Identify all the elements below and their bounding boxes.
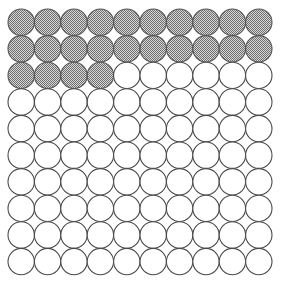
circle-row xyxy=(8,248,272,274)
shaded-circle xyxy=(34,9,60,35)
unshaded-circle xyxy=(114,195,140,221)
shaded-circle xyxy=(166,9,192,35)
unshaded-circle xyxy=(114,142,140,168)
circles-layer xyxy=(8,9,272,275)
unshaded-circle xyxy=(8,169,34,195)
shaded-circle xyxy=(219,9,245,35)
unshaded-circle xyxy=(219,89,245,115)
unshaded-circle xyxy=(114,115,140,141)
unshaded-circle xyxy=(140,115,166,141)
unshaded-circle xyxy=(193,62,219,88)
unshaded-circle xyxy=(193,222,219,248)
unshaded-circle xyxy=(246,195,272,221)
shaded-circle xyxy=(87,62,113,88)
unshaded-circle xyxy=(140,195,166,221)
unshaded-circle xyxy=(61,115,87,141)
circle-row xyxy=(8,222,272,248)
unshaded-circle xyxy=(34,248,60,274)
unshaded-circle xyxy=(193,115,219,141)
unshaded-circle xyxy=(140,248,166,274)
unshaded-circle xyxy=(193,142,219,168)
unshaded-circle xyxy=(61,169,87,195)
unshaded-circle xyxy=(140,142,166,168)
unshaded-circle xyxy=(140,169,166,195)
unshaded-circle xyxy=(114,89,140,115)
unshaded-circle xyxy=(8,89,34,115)
shaded-circle xyxy=(34,36,60,62)
unshaded-circle xyxy=(193,248,219,274)
unshaded-circle xyxy=(61,142,87,168)
unshaded-circle xyxy=(87,169,113,195)
unshaded-circle xyxy=(193,89,219,115)
unshaded-circle xyxy=(166,248,192,274)
unshaded-circle xyxy=(34,142,60,168)
unshaded-circle xyxy=(34,89,60,115)
shaded-circle xyxy=(61,62,87,88)
unshaded-circle xyxy=(8,222,34,248)
unshaded-circle xyxy=(140,89,166,115)
unshaded-circle xyxy=(61,195,87,221)
unshaded-circle xyxy=(246,169,272,195)
unshaded-circle xyxy=(8,142,34,168)
unshaded-circle xyxy=(246,115,272,141)
circle-row xyxy=(8,9,272,35)
shaded-circle xyxy=(246,36,272,62)
unshaded-circle xyxy=(219,248,245,274)
shaded-circle xyxy=(87,9,113,35)
unshaded-circle xyxy=(246,142,272,168)
shaded-circle xyxy=(193,36,219,62)
unshaded-circle xyxy=(61,222,87,248)
shaded-circle xyxy=(114,9,140,35)
unshaded-circle xyxy=(8,115,34,141)
circle-grid-canvas xyxy=(0,0,281,290)
shaded-circle xyxy=(8,9,34,35)
shaded-circle xyxy=(61,9,87,35)
unshaded-circle xyxy=(219,62,245,88)
unshaded-circle xyxy=(87,142,113,168)
unshaded-circle xyxy=(193,195,219,221)
shaded-circle xyxy=(8,62,34,88)
shaded-circle xyxy=(166,36,192,62)
unshaded-circle xyxy=(219,142,245,168)
circle-grid-figure xyxy=(0,0,281,290)
circle-row xyxy=(8,36,272,62)
shaded-circle xyxy=(87,36,113,62)
circle-row xyxy=(8,115,272,141)
unshaded-circle xyxy=(114,222,140,248)
unshaded-circle xyxy=(193,169,219,195)
shaded-circle xyxy=(34,62,60,88)
unshaded-circle xyxy=(87,195,113,221)
unshaded-circle xyxy=(166,115,192,141)
unshaded-circle xyxy=(246,248,272,274)
unshaded-circle xyxy=(61,89,87,115)
unshaded-circle xyxy=(140,62,166,88)
unshaded-circle xyxy=(61,248,87,274)
shaded-circle xyxy=(246,9,272,35)
shaded-circle xyxy=(193,9,219,35)
unshaded-circle xyxy=(34,195,60,221)
shaded-circle xyxy=(140,9,166,35)
circle-row xyxy=(8,169,272,195)
unshaded-circle xyxy=(87,89,113,115)
unshaded-circle xyxy=(219,195,245,221)
circle-row xyxy=(8,142,272,168)
unshaded-circle xyxy=(87,222,113,248)
unshaded-circle xyxy=(114,169,140,195)
unshaded-circle xyxy=(87,115,113,141)
shaded-circle xyxy=(140,36,166,62)
unshaded-circle xyxy=(246,222,272,248)
unshaded-circle xyxy=(34,222,60,248)
circle-row xyxy=(8,62,272,88)
unshaded-circle xyxy=(8,195,34,221)
unshaded-circle xyxy=(246,62,272,88)
unshaded-circle xyxy=(114,248,140,274)
unshaded-circle xyxy=(219,115,245,141)
circle-row xyxy=(8,195,272,221)
unshaded-circle xyxy=(219,222,245,248)
unshaded-circle xyxy=(166,169,192,195)
unshaded-circle xyxy=(246,89,272,115)
unshaded-circle xyxy=(87,248,113,274)
unshaded-circle xyxy=(34,115,60,141)
unshaded-circle xyxy=(34,169,60,195)
unshaded-circle xyxy=(166,62,192,88)
